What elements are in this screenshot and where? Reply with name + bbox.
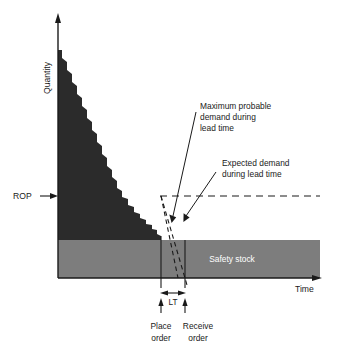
expected-demand-text-line2: during lead time <box>222 169 282 179</box>
place-order-label-line1: Place <box>151 321 172 331</box>
safety-stock-rect <box>58 240 320 278</box>
maximum-probable-text-line3: lead time <box>200 123 234 133</box>
expected-demand-leader-line <box>186 172 216 216</box>
lt-arrowhead-left <box>160 290 168 295</box>
receive-order-arrowhead <box>182 298 187 306</box>
maximum-probable-leader-line <box>173 112 196 216</box>
safety-stock-label: Safety stock <box>209 254 255 264</box>
reorder-point-diagram-svg: Safety stock Quantity Time ROP <box>0 0 341 354</box>
y-axis-arrowhead <box>55 13 61 23</box>
expected-demand-annotation: Expected demand during lead time <box>183 158 289 222</box>
place-order-label-line2: order <box>151 333 171 343</box>
maximum-probable-text-line2: demand during <box>200 112 256 122</box>
receive-order-label-line2: order <box>188 333 208 343</box>
y-axis-label: Quantity <box>42 61 52 94</box>
lt-label: LT <box>169 298 178 307</box>
expected-demand-text-line1: Expected demand <box>222 158 290 168</box>
safety-stock-band: Safety stock <box>58 240 320 278</box>
lt-arrowhead-right <box>178 290 186 295</box>
rop-pointer-arrowhead <box>50 193 58 199</box>
inventory-reorder-point-figure: Safety stock Quantity Time ROP <box>0 0 341 354</box>
place-order-arrowhead <box>158 298 163 306</box>
x-axis-label: Time <box>295 284 314 294</box>
maximum-probable-text-line1: Maximum probable <box>200 101 272 111</box>
place-order-label-group: Place order <box>151 321 172 343</box>
lead-time-bracket: LT <box>160 290 186 307</box>
receive-order-label-group: Receive order <box>183 321 214 343</box>
receive-order-label-line1: Receive <box>183 321 214 331</box>
rop-label: ROP <box>13 191 32 201</box>
